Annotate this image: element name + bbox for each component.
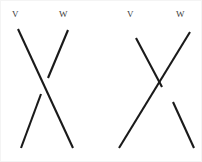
left-crossing-label-v: V [12, 10, 19, 19]
right-crossing-w-strand [119, 32, 190, 148]
left-crossing-v-strand [18, 29, 73, 148]
right-crossing-w-strand-segment-0 [119, 32, 190, 148]
left-crossing-label-w: W [59, 10, 68, 19]
right-crossing-v-strand-segment-0 [136, 38, 162, 87]
right-crossing-label-w: W [176, 10, 185, 19]
strand-layer [18, 29, 194, 148]
left-crossing-diagram [18, 29, 73, 148]
right-crossing-label-v: V [127, 10, 134, 19]
right-crossing-diagram [119, 32, 194, 148]
figure-canvas: VWVW [0, 0, 202, 162]
left-crossing-w-strand-segment-0 [48, 30, 68, 78]
crossing-diagrams-svg [1, 1, 202, 162]
left-crossing-v-strand-segment-0 [18, 29, 73, 148]
left-crossing-w-strand [21, 30, 68, 148]
right-crossing-v-strand-segment-1 [173, 102, 194, 148]
left-crossing-w-strand-segment-1 [21, 94, 41, 148]
right-crossing-v-strand [136, 38, 194, 148]
